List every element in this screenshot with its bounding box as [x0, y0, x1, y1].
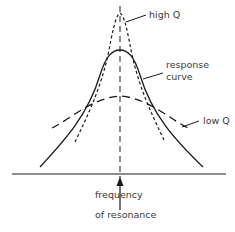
response-curve-leader [143, 73, 163, 79]
high-q-label: high Q [149, 9, 180, 20]
frequency-label-line1: frequency [95, 189, 143, 200]
resonance-diagram: high Q response curve low Q frequency of… [0, 0, 235, 232]
high-q-leader [126, 15, 146, 22]
low-q-label: low Q [203, 115, 230, 126]
response-curve-label-line2: curve [166, 71, 193, 82]
frequency-label-line2: of resonance [95, 209, 157, 220]
arrow-up-icon [117, 177, 124, 186]
response-curve-label-line1: response [166, 59, 209, 70]
low-q-leader [182, 121, 199, 127]
